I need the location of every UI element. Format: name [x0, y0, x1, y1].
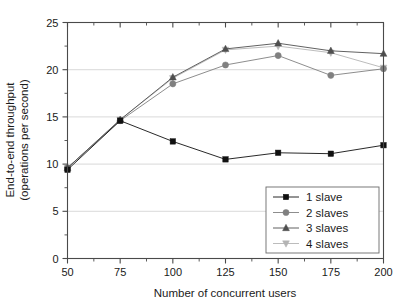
data-point-3-slaves-150 — [275, 40, 282, 46]
y-tick-label-10: 10 — [46, 158, 58, 170]
y-tick-label-5: 5 — [52, 205, 58, 217]
x-axis-title: Number of concurrent users — [154, 287, 297, 299]
data-point-1-slave-100 — [170, 139, 175, 144]
legend-label-1-slave: 1 slave — [306, 191, 342, 203]
x-axis-tick-labels: 5075100125150175200 — [61, 266, 392, 278]
series-3-slaves — [64, 40, 387, 171]
legend-label-3-slaves: 3 slaves — [306, 222, 348, 234]
y-axis-title-line2: (operations per second) — [18, 79, 30, 201]
data-point-2-slaves-150 — [275, 52, 281, 58]
data-point-1-slave-125 — [223, 157, 228, 162]
chart-legend[interactable]: 1 slave2 slaves3 slaves4 slaves — [266, 187, 379, 253]
x-tick-label-200: 200 — [374, 266, 392, 278]
data-point-1-slave-75 — [117, 118, 122, 123]
y-tick-label-25: 25 — [46, 17, 58, 29]
legend-label-2-slaves: 2 slaves — [306, 207, 348, 219]
y-tick-label-20: 20 — [46, 64, 58, 76]
data-point-2-slaves-100 — [170, 81, 176, 87]
legend-label-4-slaves: 4 slaves — [306, 238, 348, 250]
data-point-1-slave-150 — [275, 150, 280, 155]
data-point-2-slaves-175 — [328, 72, 334, 78]
x-tick-label-175: 175 — [322, 266, 340, 278]
legend-marker-2-slaves — [283, 209, 289, 215]
series-line-2-slaves — [68, 56, 384, 168]
series-line-1-slave — [68, 121, 384, 170]
x-tick-label-50: 50 — [61, 266, 73, 278]
data-point-2-slaves-125 — [222, 62, 228, 68]
throughput-line-chart: 5075100125150175200 0510152025 Number of… — [0, 0, 402, 306]
y-axis-title-line1: End-to-end throughput — [4, 82, 16, 198]
legend-marker-1-slave — [283, 194, 288, 199]
data-point-1-slave-175 — [328, 151, 333, 156]
x-tick-label-125: 125 — [216, 266, 234, 278]
y-axis-tick-labels: 0510152025 — [46, 17, 58, 265]
data-series-layer — [64, 40, 387, 173]
x-tick-label-75: 75 — [114, 266, 126, 278]
x-tick-label-150: 150 — [269, 266, 287, 278]
y-tick-label-0: 0 — [52, 253, 58, 265]
y-tick-label-15: 15 — [46, 111, 58, 123]
chart-figure: 5075100125150175200 0510152025 Number of… — [0, 0, 402, 306]
series-2-slaves — [64, 52, 386, 171]
x-tick-label-100: 100 — [164, 266, 182, 278]
